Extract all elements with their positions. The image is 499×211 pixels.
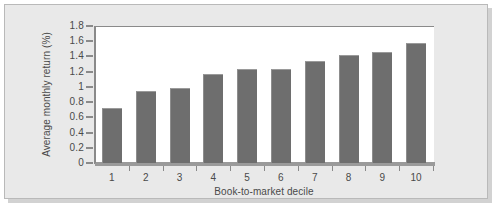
y-tick-mark — [86, 25, 93, 27]
x-tick-label: 4 — [198, 172, 228, 184]
x-tick-label: 2 — [131, 172, 161, 184]
x-tick-label: 8 — [334, 172, 364, 184]
y-tick-mark — [86, 147, 93, 149]
x-tick-mark — [399, 166, 400, 171]
x-tick-mark — [264, 166, 265, 171]
x-tick-label: 10 — [401, 172, 431, 184]
x-tick-mark — [298, 166, 299, 171]
y-tick-mark — [86, 71, 93, 73]
bar — [136, 91, 156, 163]
bar — [170, 88, 190, 163]
y-tick-mark — [86, 132, 93, 134]
y-tick-label: 0.2 — [69, 142, 84, 154]
bar — [237, 69, 257, 163]
x-tick-label: 1 — [97, 172, 127, 184]
y-tick-mark — [86, 162, 93, 164]
y-tick-label: 1.6 — [69, 35, 84, 47]
x-tick-mark — [129, 166, 130, 171]
bar — [406, 43, 426, 163]
bar — [102, 108, 122, 163]
x-tick-label: 7 — [300, 172, 330, 184]
y-tick-mark — [86, 86, 93, 88]
x-tick-mark — [230, 166, 231, 171]
y-tick-mark — [86, 40, 93, 42]
y-tick-label: 1.4 — [69, 50, 84, 62]
chart-figure: 00.20.40.60.811.21.41.61.8 Average month… — [0, 0, 499, 211]
bar — [372, 52, 392, 163]
bar — [305, 61, 325, 163]
x-tick-label: 5 — [232, 172, 262, 184]
bar — [203, 74, 223, 163]
x-tick-mark — [332, 166, 333, 171]
x-tick-mark — [163, 166, 164, 171]
y-tick-mark — [86, 116, 93, 118]
y-tick-label: 0.8 — [69, 96, 84, 108]
x-tick-label: 9 — [367, 172, 397, 184]
y-tick-label: 1.8 — [69, 20, 84, 32]
bar — [271, 69, 291, 163]
y-tick-label: 0.4 — [69, 127, 84, 139]
x-axis-title: Book-to-market decile — [95, 186, 433, 198]
y-tick-label: 0 — [78, 157, 84, 169]
x-tick-label: 3 — [165, 172, 195, 184]
x-tick-mark — [433, 166, 434, 171]
y-tick-label: 1 — [78, 81, 84, 93]
bar-series — [95, 26, 433, 163]
x-tick-mark — [196, 166, 197, 171]
y-tick-mark — [86, 55, 93, 57]
x-tick-label: 6 — [266, 172, 296, 184]
x-tick-mark — [365, 166, 366, 171]
y-axis-title: Average monthly return (%) — [40, 26, 54, 163]
y-tick-label: 1.2 — [69, 66, 84, 78]
y-tick-label: 0.6 — [69, 111, 84, 123]
bar — [339, 55, 359, 163]
y-tick-mark — [86, 101, 93, 103]
